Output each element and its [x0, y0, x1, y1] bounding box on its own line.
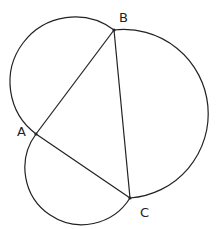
- point-a: [34, 132, 37, 135]
- point-b: [112, 28, 115, 31]
- label-b: B: [119, 11, 128, 24]
- segment-ab: [36, 30, 114, 134]
- arc-ab: [10, 17, 114, 134]
- geometry-diagram: A B C: [0, 0, 223, 229]
- arc-ca: [25, 134, 130, 225]
- segment-bc: [114, 30, 130, 198]
- point-c: [128, 196, 131, 199]
- segment-ca: [36, 134, 130, 198]
- label-a: A: [17, 125, 26, 138]
- diagram-canvas: [0, 0, 223, 229]
- label-c: C: [140, 206, 149, 219]
